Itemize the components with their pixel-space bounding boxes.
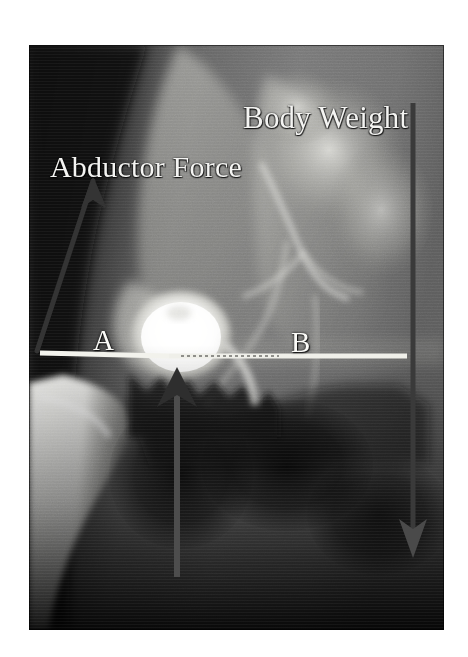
label-abductor-force: Abductor Force [50, 150, 242, 184]
label-lever-arm-b: B [291, 328, 310, 357]
label-body-weight: Body Weight [243, 101, 408, 135]
figure-root: Body Weight Abductor Force Joint Reactiv… [0, 0, 468, 657]
xray-radiograph-figure: Body Weight Abductor Force Joint Reactiv… [29, 45, 444, 630]
label-lever-arm-a: A [93, 326, 114, 355]
